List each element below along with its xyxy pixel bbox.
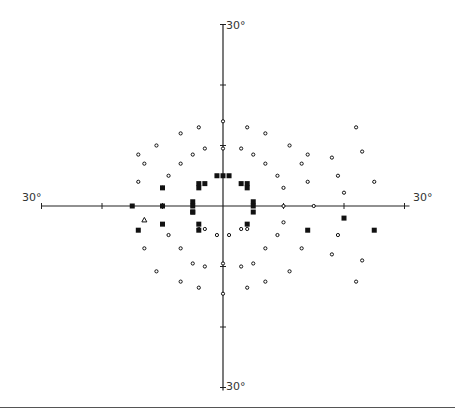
seen-point-circle-icon (246, 227, 249, 230)
seen-point-circle-icon (264, 132, 267, 135)
seen-point-circle-icon (312, 204, 315, 207)
defect-point-square-icon (251, 210, 256, 215)
defect-point-square-icon (130, 204, 135, 209)
seen-point-circle-icon (246, 126, 249, 129)
seen-point-circle-icon (300, 162, 303, 165)
seen-point-circle-icon (336, 174, 339, 177)
seen-point-circle-icon (167, 174, 170, 177)
seen-point-circle-icon (143, 247, 146, 250)
seen-point-circle-icon (215, 233, 218, 236)
seen-point-circle-icon (361, 259, 364, 262)
defect-point-square-icon (245, 222, 250, 227)
defect-point-square-icon (227, 173, 232, 178)
seen-point-circle-icon (227, 233, 230, 236)
defect-point-square-icon (160, 185, 165, 190)
seen-point-circle-icon (282, 221, 285, 224)
axis-label-top: 30° (226, 20, 246, 31)
seen-point-circle-icon (342, 191, 345, 194)
seen-point-circle-icon (300, 247, 303, 250)
seen-point-circle-icon (264, 247, 267, 250)
seen-point-circle-icon (355, 126, 358, 129)
relative-defect-triangle-icon (142, 217, 147, 222)
seen-point-circle-icon (252, 262, 255, 265)
axis-label-right: 30° (413, 192, 433, 203)
seen-point-circle-icon (306, 153, 309, 156)
seen-point-circle-icon (252, 153, 255, 156)
seen-point-circle-icon (330, 253, 333, 256)
defect-point-square-icon (239, 181, 244, 186)
defect-point-square-icon (251, 204, 256, 209)
seen-point-circle-icon (137, 180, 140, 183)
seen-point-circle-icon (221, 120, 224, 123)
seen-point-circle-icon (276, 174, 279, 177)
seen-point-circle-icon (264, 280, 267, 283)
seen-point-circle-icon (240, 227, 243, 230)
seen-point-circle-icon (197, 286, 200, 289)
defect-point-square-icon (372, 228, 377, 233)
axis-label-left: 30° (22, 192, 42, 203)
seen-point-circle-icon (203, 265, 206, 268)
seen-point-circle-icon (203, 147, 206, 150)
seen-point-circle-icon (167, 233, 170, 236)
seen-point-circle-icon (355, 280, 358, 283)
defect-point-square-icon (221, 173, 226, 178)
seen-point-circle-icon (179, 247, 182, 250)
seen-point-circle-icon (288, 144, 291, 147)
seen-point-circle-icon (330, 156, 333, 159)
defect-point-square-icon (202, 181, 207, 186)
bottom-divider (0, 407, 455, 408)
seen-point-circle-icon (221, 147, 224, 150)
defect-point-square-icon (245, 185, 250, 190)
defect-point-square-icon (160, 222, 165, 227)
seen-point-circle-icon (240, 265, 243, 268)
seen-point-circle-icon (155, 270, 158, 273)
markers (130, 120, 377, 296)
seen-point-circle-icon (246, 286, 249, 289)
defect-point-square-icon (190, 210, 195, 215)
seen-point-circle-icon (306, 180, 309, 183)
defect-point-square-icon (196, 228, 201, 233)
seen-point-circle-icon (373, 180, 376, 183)
seen-point-circle-icon (179, 162, 182, 165)
seen-point-circle-icon (137, 153, 140, 156)
seen-point-circle-icon (282, 186, 285, 189)
visual-field-plot (0, 0, 455, 417)
seen-point-circle-icon (276, 233, 279, 236)
seen-point-circle-icon (143, 162, 146, 165)
seen-point-circle-icon (336, 233, 339, 236)
seen-point-circle-icon (179, 280, 182, 283)
defect-point-square-icon (190, 204, 195, 209)
seen-point-circle-icon (361, 150, 364, 153)
seen-point-circle-icon (221, 292, 224, 295)
seen-point-circle-icon (264, 162, 267, 165)
seen-point-circle-icon (155, 144, 158, 147)
defect-point-square-icon (214, 173, 219, 178)
defect-point-square-icon (305, 228, 310, 233)
seen-point-circle-icon (179, 132, 182, 135)
defect-point-square-icon (160, 204, 165, 209)
axes (42, 25, 410, 391)
defect-point-square-icon (342, 216, 347, 221)
seen-point-circle-icon (288, 270, 291, 273)
seen-point-circle-icon (221, 262, 224, 265)
seen-point-circle-icon (282, 204, 285, 207)
axis-label-bottom: 30° (226, 381, 246, 392)
seen-point-circle-icon (191, 153, 194, 156)
seen-point-circle-icon (240, 147, 243, 150)
seen-point-circle-icon (197, 126, 200, 129)
seen-point-circle-icon (203, 227, 206, 230)
seen-point-circle-icon (191, 262, 194, 265)
defect-point-square-icon (196, 222, 201, 227)
defect-point-square-icon (196, 185, 201, 190)
defect-point-square-icon (136, 228, 141, 233)
